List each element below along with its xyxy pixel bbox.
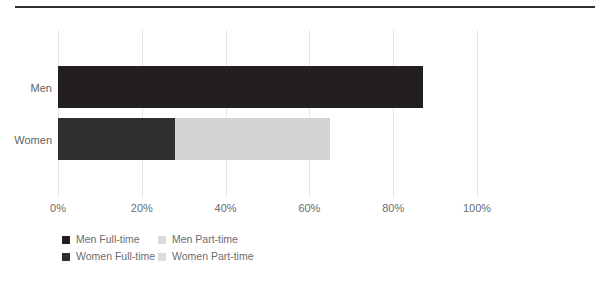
x-tick-label-60%: 60% xyxy=(298,203,320,214)
legend-row-1: Men Full-time Men Part-time xyxy=(62,231,362,248)
legend-label-men-full-time: Men Full-time xyxy=(76,234,140,245)
gridline-40% xyxy=(226,30,227,198)
legend-item-women-part-time[interactable]: Women Part-time xyxy=(158,248,298,265)
gridline-100% xyxy=(477,30,478,198)
gridline-80% xyxy=(393,30,394,198)
top-divider-rule xyxy=(15,6,595,8)
chart-legend: Men Full-time Men Part-time Women Full-t… xyxy=(62,231,362,265)
plot-area xyxy=(58,30,477,198)
legend-label-men-part-time: Men Part-time xyxy=(172,234,238,245)
legend-label-women-part-time: Women Part-time xyxy=(172,251,254,262)
x-axis-tick-labels: 0%20%40%60%80%100% xyxy=(58,203,477,219)
bar-row-women[interactable] xyxy=(58,118,330,160)
gridline-20% xyxy=(142,30,143,198)
chart-figure: Men Women 0%20%40%60%80%100% Men Full-ti… xyxy=(0,0,611,288)
gridline-0% xyxy=(58,30,59,198)
legend-label-women-full-time: Women Full-time xyxy=(76,251,155,262)
x-tick-label-40%: 40% xyxy=(215,203,237,214)
legend-swatch-women-full-time xyxy=(62,253,70,261)
x-tick-label-80%: 80% xyxy=(382,203,404,214)
x-tick-label-0%: 0% xyxy=(50,203,66,214)
gridline-60% xyxy=(309,30,310,198)
bar-segment-women-part-time[interactable] xyxy=(175,118,330,160)
bar-segment-men-full-time[interactable] xyxy=(58,66,423,108)
legend-swatch-women-part-time xyxy=(158,253,166,261)
y-axis-label-men: Men xyxy=(0,83,52,94)
y-axis-label-women: Women xyxy=(0,135,52,146)
x-tick-label-100%: 100% xyxy=(463,203,491,214)
bar-segment-women-full-time[interactable] xyxy=(58,118,175,160)
legend-item-men-full-time[interactable]: Men Full-time xyxy=(62,231,158,248)
y-axis-category-labels: Men Women xyxy=(0,30,52,198)
legend-swatch-men-full-time xyxy=(62,236,70,244)
legend-item-women-full-time[interactable]: Women Full-time xyxy=(62,248,158,265)
legend-swatch-men-part-time xyxy=(158,236,166,244)
x-tick-label-20%: 20% xyxy=(131,203,153,214)
bar-row-men[interactable] xyxy=(58,66,423,108)
legend-item-men-part-time[interactable]: Men Part-time xyxy=(158,231,298,248)
legend-row-2: Women Full-time Women Part-time xyxy=(62,248,362,265)
